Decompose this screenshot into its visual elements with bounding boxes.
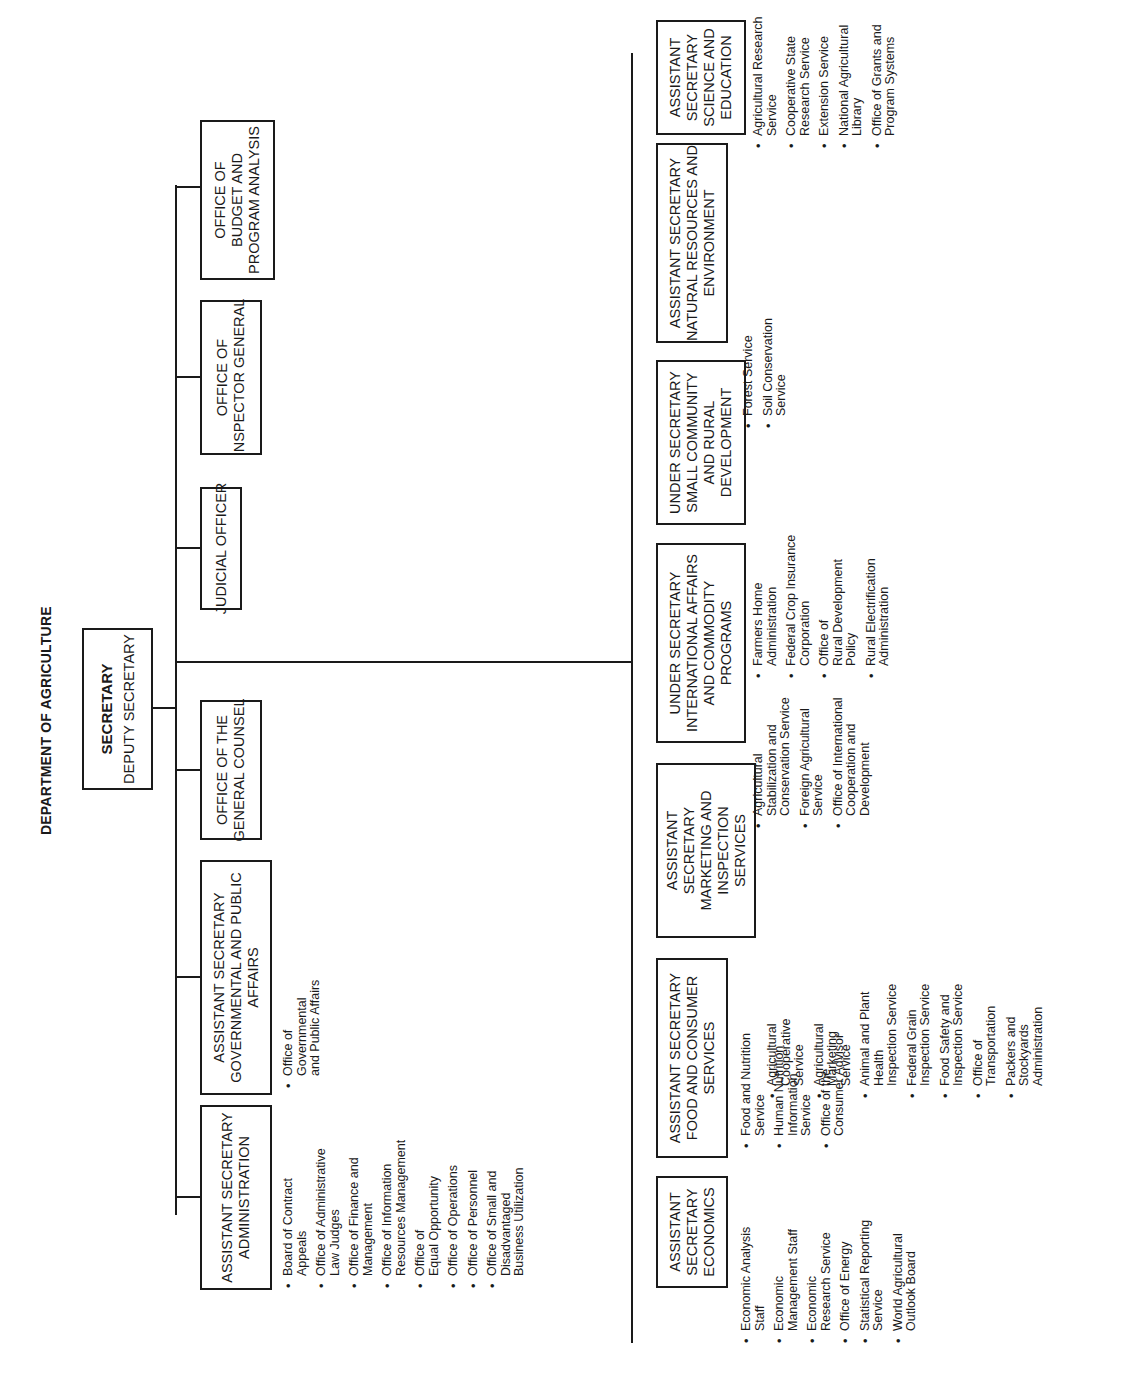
secretary-title: SECRETARY [98, 664, 115, 755]
economics-subunits: Economic Analysis StaffEconomic Manageme… [740, 1153, 925, 1343]
subunit-list-item: Economic Management Staff [773, 1153, 800, 1343]
subunit-list-item: Forest Service [742, 268, 756, 428]
stem-admin [176, 186, 200, 188]
subunit-list-item: Packers and Stockyards Administration [1005, 778, 1046, 1098]
connector-secretary-to-trunk [153, 707, 177, 709]
connector-to-program-trunk [176, 661, 632, 663]
subunit-list-item: Food and Nutrition Service [740, 978, 767, 1148]
program-trunk-line [631, 53, 633, 1343]
program-office-natural-resources-environment: ASSISTANT SECRETARY NATURAL RESOURCES AN… [656, 143, 728, 343]
subunit-list-item: Extension Service [818, 0, 832, 148]
subunit-list-item: Food Safety and Inspection Service [939, 778, 966, 1098]
program-office-food-consumer-services: ASSISTANT SECRETARY FOOD AND CONSUMER SE… [656, 958, 728, 1158]
subunit-list-item: Office of Grants and Program Systems [871, 0, 898, 148]
chart-title: DEPARTMENT OF AGRICULTURE [38, 606, 54, 835]
staff-office-general-counsel: OFFICE OF THE GENERAL COUNSEL [200, 700, 262, 840]
subunit-list-item: Federal Crop Insurance Corporation [785, 468, 812, 678]
program-office-marketing-inspection: ASSISTANT SECRETARY MARKETING AND INSPEC… [656, 763, 756, 938]
staff-trunk-line [175, 185, 177, 1215]
staff-office-governmental-public-affairs: ASSISTANT SECRETARY GOVERNMENTAL AND PUB… [200, 860, 272, 1095]
staff-office-inspector-general: OFFICE OF INSPECTOR GENERAL [200, 300, 262, 455]
subunit-list-item: Office of Operations [447, 958, 461, 1288]
subunit-list-item: Agricultural Research Service [752, 0, 779, 148]
governmental-public-affairs-subunits: Office of Governmental and Public Affair… [282, 928, 329, 1088]
deputy-secretary-title: DEPUTY SECRETARY [121, 634, 138, 784]
program-office-science-education: ASSISTANT SECRETARY SCIENCE AND EDUCATIO… [656, 20, 746, 135]
staff-office-administration: ASSISTANT SECRETARY ADMINISTRATION [200, 1105, 272, 1290]
subunit-list-item: Office of Small and Disadvantaged Busine… [486, 958, 527, 1288]
subunit-list-item: Economic Research Service [806, 1153, 833, 1343]
subunit-list-item: Farmers Home Administration [752, 468, 779, 678]
subunit-list-item: Office of Equal Opportunity [414, 958, 441, 1288]
subunit-list-item: Office of Energy [839, 1153, 853, 1343]
program-office-small-community-rural-development: UNDER SECRETARY SMALL COMMUNITY AND RURA… [656, 360, 746, 525]
program-office-international-affairs: UNDER SECRETARY INTERNATIONAL AFFAIRS AN… [656, 543, 746, 743]
subunit-list-item: Office of Transportation [972, 778, 999, 1098]
subunit-list-item: Office of Rural Development Policy [818, 468, 859, 678]
subunit-list-item: National Agricultural Library [838, 0, 865, 148]
subunit-list-item: Cooperative State Research Service [785, 0, 812, 148]
subunit-list-item: Rural Electrification Administration [865, 468, 892, 678]
program-office-economics: ASSISTANT SECRETARY ECONOMICS [656, 1176, 728, 1288]
science-education-subunits: Agricultural Research ServiceCooperative… [752, 0, 904, 148]
subunit-list-item: Office of Finance and Management [348, 958, 375, 1288]
natural-resources-environment-subunits: Forest ServiceSoil Conservation Service [742, 268, 795, 428]
small-community-rural-development-subunits: Farmers Home AdministrationFederal Crop … [752, 468, 898, 678]
stem-gpa [176, 976, 200, 978]
stem-general-counsel [176, 769, 200, 771]
subunit-list-item: Economic Analysis Staff [740, 1153, 767, 1343]
secretary-box: SECRETARY DEPUTY SECRETARY [82, 628, 153, 790]
subunit-list-item: Statistical Reporting Service [859, 1153, 886, 1343]
stem-judicial [176, 547, 200, 549]
subunit-list-item: Office of Personnel [467, 958, 481, 1288]
staff-office-budget-program-analysis: OFFICE OF BUDGET AND PROGRAM ANALYSIS [200, 120, 275, 280]
stem-admin-line [176, 1196, 200, 1198]
staff-office-judicial-officer: JUDICIAL OFFICER [200, 487, 242, 610]
subunit-list-item: Office of Governmental and Public Affair… [282, 928, 323, 1088]
subunit-list-item: Soil Conservation Service [762, 268, 789, 428]
stem-inspector-general [176, 376, 200, 378]
org-chart: DEPARTMENT OF AGRICULTURE SECRETARY DEPU… [0, 0, 1147, 1388]
subunit-list-item: Office of Information Resources Manageme… [381, 958, 408, 1288]
subunit-list-item: World Agricultural Outlook Board [892, 1153, 919, 1343]
subunit-list-item: Federal Grain Inspection Service [906, 778, 933, 1098]
